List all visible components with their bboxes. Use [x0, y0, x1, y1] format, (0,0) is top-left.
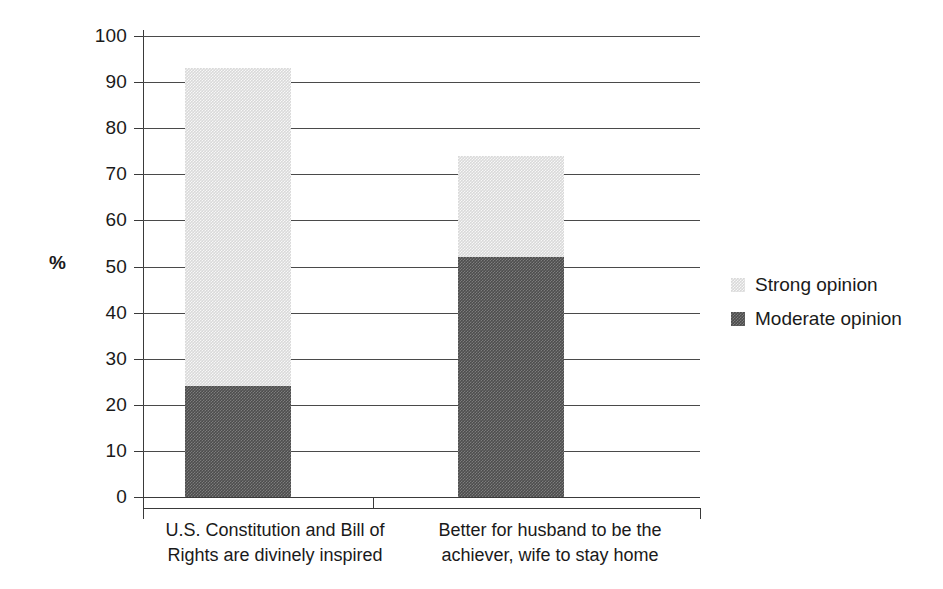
y-tick-80 — [134, 128, 143, 129]
y-tick-60 — [134, 220, 143, 221]
bar-2[interactable] — [458, 156, 564, 497]
bar-2-segment-strong[interactable] — [458, 156, 564, 257]
category-label-2: Better for husband to be theachiever, wi… — [400, 518, 700, 568]
y-tick-label-10: 10 — [105, 441, 127, 460]
bar-1-segment-strong[interactable] — [185, 68, 291, 386]
x-axis-right-cap — [700, 508, 701, 519]
y-tick-20 — [134, 405, 143, 406]
legend-item-strong[interactable]: Strong opinion — [731, 275, 878, 294]
y-tick-label-40: 40 — [105, 303, 127, 322]
category-label-line: Rights are divinely inspired — [130, 543, 420, 568]
y-tick-70 — [134, 174, 143, 175]
legend-label-strong: Strong opinion — [755, 275, 878, 294]
y-tick-50 — [134, 267, 143, 268]
y-axis-title: % — [28, 252, 66, 274]
y-tick-label-100: 100 — [95, 26, 127, 45]
stacked-bar-chart: % 1009080706050403020100 U.S. Constituti… — [0, 0, 943, 589]
y-tick-10 — [134, 451, 143, 452]
legend-label-moderate: Moderate opinion — [755, 309, 902, 328]
category-label-1: U.S. Constitution and Bill ofRights are … — [130, 518, 420, 568]
y-tick-30 — [134, 359, 143, 360]
y-tick-label-70: 70 — [105, 164, 127, 183]
category-label-line: achiever, wife to stay home — [400, 543, 700, 568]
category-label-line: U.S. Constitution and Bill of — [130, 518, 420, 543]
legend-item-moderate[interactable]: Moderate opinion — [731, 309, 902, 328]
y-tick-label-0: 0 — [116, 487, 127, 506]
y-tick-100 — [134, 36, 143, 37]
legend-swatch-moderate-icon — [731, 312, 745, 326]
gridline-100 — [143, 36, 700, 37]
y-tick-label-20: 20 — [105, 395, 127, 414]
y-tick-label-90: 90 — [105, 72, 127, 91]
bar-1-segment-moderate[interactable] — [185, 386, 291, 497]
category-divider-tick — [373, 497, 374, 509]
y-tick-label-80: 80 — [105, 118, 127, 137]
y-tick-label-60: 60 — [105, 210, 127, 229]
legend-swatch-strong-icon — [731, 278, 745, 292]
y-tick-40 — [134, 313, 143, 314]
y-tick-label-30: 30 — [105, 349, 127, 368]
y-tick-label-50: 50 — [105, 257, 127, 276]
plot-area — [143, 36, 700, 497]
y-tick-90 — [134, 82, 143, 83]
x-axis-line — [143, 508, 701, 509]
category-label-line: Better for husband to be the — [400, 518, 700, 543]
bar-1[interactable] — [185, 68, 291, 497]
gridline-0 — [143, 497, 700, 498]
y-tick-0 — [134, 497, 143, 498]
bar-2-segment-moderate[interactable] — [458, 257, 564, 497]
